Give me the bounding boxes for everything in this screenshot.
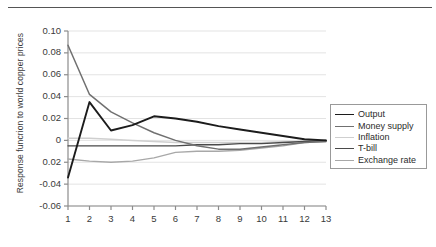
chart-legend: Output Money supply Inflation T-bill Exc… xyxy=(330,104,427,169)
x-tick-label: 6 xyxy=(168,213,184,224)
y-tick-label: 0.02 xyxy=(25,156,61,167)
x-tick-label: 2 xyxy=(82,213,98,224)
y-tick-label: 0.06 xyxy=(25,68,61,79)
y-tick-label: -0.04 xyxy=(25,178,61,189)
legend-item-inflation: Inflation xyxy=(335,132,423,143)
legend-item-money-supply: Money supply xyxy=(335,120,423,131)
x-tick-label: 1 xyxy=(60,213,76,224)
x-tick-label: 4 xyxy=(125,213,141,224)
y-tick-label: 0.10 xyxy=(25,25,61,36)
series-line-money-supply xyxy=(68,45,326,149)
y-tick-label: 0.08 xyxy=(25,46,61,57)
y-tick-label: 0 xyxy=(25,134,61,145)
x-tick-label: 5 xyxy=(146,213,162,224)
series-line-output xyxy=(68,102,326,177)
x-tick-label: 3 xyxy=(103,213,119,224)
chart-figure: Response funcrion to world copper prices… xyxy=(0,0,436,247)
x-tick-label: 7 xyxy=(189,213,205,224)
y-tick-label: -0.06 xyxy=(25,200,61,211)
x-tick-label: 9 xyxy=(232,213,248,224)
legend-label-output: Output xyxy=(358,109,385,120)
legend-swatch-money-supply xyxy=(335,126,354,127)
legend-label-inflation: Inflation xyxy=(358,132,390,143)
legend-item-output: Output xyxy=(335,109,423,120)
legend-swatch-exchange-rate xyxy=(335,160,354,161)
legend-item-t-bill: T-bill xyxy=(335,143,423,154)
legend-label-exchange-rate: Exchange rate xyxy=(358,155,416,166)
x-tick-label: 10 xyxy=(254,213,270,224)
x-tick-label: 13 xyxy=(318,213,334,224)
legend-label-money-supply: Money supply xyxy=(358,121,414,132)
x-tick-label: 8 xyxy=(211,213,227,224)
legend-swatch-inflation xyxy=(335,137,354,138)
legend-swatch-output xyxy=(335,114,354,115)
legend-item-exchange-rate: Exchange rate xyxy=(335,155,423,166)
x-tick-label: 11 xyxy=(275,213,291,224)
legend-label-t-bill: T-bill xyxy=(358,143,377,154)
x-tick-label: 12 xyxy=(297,213,313,224)
y-tick-label: 0.02 xyxy=(25,112,61,123)
legend-swatch-t-bill xyxy=(335,148,354,149)
y-tick-label: 0.04 xyxy=(25,90,61,101)
